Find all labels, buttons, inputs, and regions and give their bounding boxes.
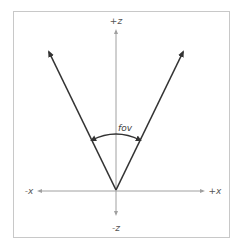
- pos-z-label: +z: [110, 16, 123, 26]
- neg-x-label: -x: [25, 186, 34, 196]
- pos-x-label: +x: [209, 186, 223, 196]
- fov-label: fov: [118, 123, 133, 133]
- fov-diagram: +z -z +x -x fov: [0, 0, 238, 244]
- neg-z-label: -z: [112, 223, 120, 233]
